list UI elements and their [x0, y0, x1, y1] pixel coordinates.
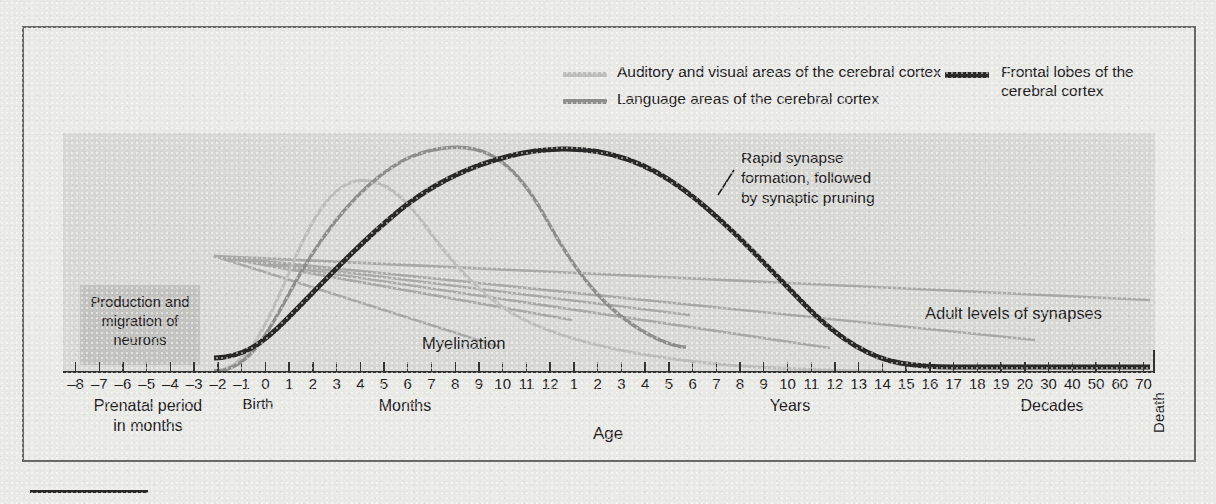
x-axis-tick	[1000, 362, 1001, 371]
x-axis-tick	[217, 362, 218, 371]
x-axis-tick-label: 40	[1064, 376, 1081, 392]
x-axis-tick	[1048, 362, 1049, 371]
x-axis-tick	[360, 362, 361, 371]
x-axis-tick-label: 5	[380, 376, 388, 392]
x-axis-tick-label: 8	[736, 376, 744, 392]
x-axis-tick-label: 3	[617, 376, 625, 392]
rapid-synapse-annotation: Rapid synapse formation, followed by syn…	[741, 148, 875, 208]
x-axis-tick-label: 60	[1111, 376, 1128, 392]
x-axis-tick-label: 7	[712, 376, 720, 392]
x-axis-tick-label: –4	[162, 376, 179, 392]
x-axis-tick-label: 10	[494, 376, 511, 392]
x-axis-tick-label: 50	[1088, 376, 1105, 392]
death-label: Death	[1150, 392, 1167, 433]
x-axis-tick	[882, 362, 883, 371]
x-axis-tick	[193, 362, 194, 371]
x-axis-tick-label: –3	[186, 376, 203, 392]
x-axis-tick	[122, 362, 123, 371]
x-axis-tick	[573, 362, 574, 371]
x-axis-tick	[644, 362, 645, 371]
x-axis-tick	[288, 362, 289, 371]
x-axis-tick	[1095, 362, 1096, 371]
x-axis-tick-label: 2	[309, 376, 317, 392]
x-axis-tick	[692, 362, 693, 371]
x-axis-tick-label: 9	[475, 376, 483, 392]
x-axis-tick	[1024, 362, 1025, 371]
x-axis-tick-label: 70	[1135, 376, 1152, 392]
x-axis-tick	[241, 362, 242, 371]
x-axis-tick	[1143, 362, 1144, 371]
x-axis-tick	[383, 362, 384, 371]
x-axis-tick-label: 16	[922, 376, 939, 392]
x-axis-tick	[455, 362, 456, 371]
myelination-fan	[214, 256, 1150, 348]
x-axis-tick	[407, 362, 408, 371]
x-axis-tick	[597, 362, 598, 371]
x-axis-tick	[953, 362, 954, 371]
x-axis-tick	[431, 362, 432, 371]
x-axis-tick-label: –7	[91, 376, 108, 392]
x-axis-tick	[834, 362, 835, 371]
category-decades: Decades	[1020, 396, 1083, 415]
x-axis-tick-label: 8	[451, 376, 459, 392]
x-axis-tick	[146, 362, 147, 371]
x-axis-tick	[478, 362, 479, 371]
myelination-annotation: Myelination	[422, 333, 505, 353]
x-axis-tick-label: 2	[593, 376, 601, 392]
x-axis-tick-label: 20	[1016, 376, 1033, 392]
x-axis-tick-label: 11	[519, 376, 535, 392]
x-axis-tick-label: 17	[945, 376, 962, 392]
bottom-rule	[30, 490, 148, 493]
x-axis-line	[63, 371, 1155, 373]
x-axis-tick-label: 7	[427, 376, 435, 392]
x-axis-tick	[170, 362, 171, 371]
x-axis-tick-label: 18	[969, 376, 986, 392]
adult-levels-annotation: Adult levels of synapses	[925, 303, 1102, 323]
x-axis-tick	[811, 362, 812, 371]
rapid-synapse-pointer	[718, 170, 734, 195]
x-axis-tick	[763, 362, 764, 371]
x-axis-tick-label: –1	[233, 376, 250, 392]
x-axis-tick	[905, 362, 906, 371]
x-axis-tick	[1119, 362, 1120, 371]
x-axis-tick-label: 14	[874, 376, 891, 392]
x-axis-tick-label: 1	[285, 376, 293, 392]
x-axis-tick	[336, 362, 337, 371]
category-prenatal: Prenatal period in months	[94, 396, 203, 436]
x-axis-tick	[526, 362, 527, 371]
x-axis-tick-label: 10	[779, 376, 796, 392]
x-axis-tick-label: 13	[850, 376, 867, 392]
x-axis-tick	[739, 362, 740, 371]
x-axis-tick	[858, 362, 859, 371]
x-axis-tick	[265, 362, 266, 371]
x-axis-tick-label: 11	[803, 376, 819, 392]
x-axis-tick	[929, 362, 930, 371]
category-months: Months	[379, 396, 431, 415]
x-axis-tick-label: 1	[570, 376, 578, 392]
x-axis-tick-label: –8	[67, 376, 84, 392]
x-axis-tick	[99, 362, 100, 371]
x-axis-tick-label: 6	[688, 376, 696, 392]
x-axis-tick-label: 9	[760, 376, 768, 392]
x-axis-tick	[549, 362, 550, 371]
x-axis-tick	[716, 362, 717, 371]
x-axis-tick-label: 5	[665, 376, 673, 392]
x-axis-tick-label: 12	[827, 376, 844, 392]
x-axis-tick	[502, 362, 503, 371]
x-axis-tick	[75, 362, 76, 371]
x-axis-tick	[621, 362, 622, 371]
x-axis-tick-label: 30	[1040, 376, 1057, 392]
axis-title: Age	[593, 424, 623, 443]
x-axis-tick-label: 15	[898, 376, 915, 392]
x-axis-tick	[977, 362, 978, 371]
x-axis-tick	[787, 362, 788, 371]
x-axis-right-cap	[1153, 350, 1155, 372]
x-axis-tick	[668, 362, 669, 371]
x-axis-tick	[1072, 362, 1073, 371]
category-birth: Birth	[243, 394, 274, 413]
x-axis-tick-label: 3	[332, 376, 340, 392]
x-axis-tick-label: 4	[641, 376, 649, 392]
x-axis-tick-label: –6	[115, 376, 132, 392]
category-years: Years	[770, 396, 810, 415]
x-axis-tick-label: 6	[404, 376, 412, 392]
